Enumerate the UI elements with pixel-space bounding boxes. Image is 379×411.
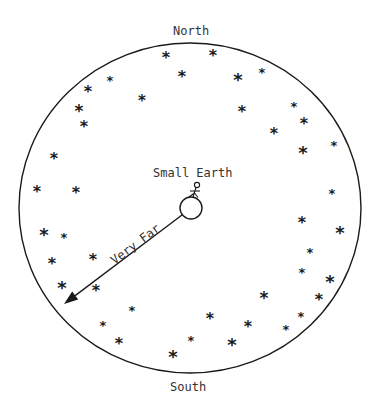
star-icon: *	[162, 50, 170, 66]
star-icon: *	[227, 336, 236, 354]
star-icon: *	[168, 348, 177, 366]
star-icon: *	[238, 104, 246, 120]
north-label: North	[173, 24, 209, 38]
star-icon: *	[89, 252, 97, 268]
star-icon: *	[115, 336, 123, 352]
star-icon: *	[80, 119, 88, 135]
sky-diagram	[0, 0, 379, 411]
star-icon: *	[92, 283, 100, 299]
star-icon: *	[259, 66, 266, 79]
star-icon: *	[188, 334, 195, 347]
star-icon: *	[329, 187, 336, 200]
star-icon: *	[300, 116, 308, 132]
star-icon: *	[298, 144, 307, 162]
star-icon: *	[298, 310, 305, 323]
star-icon: *	[39, 226, 48, 244]
small-earth-circle	[180, 197, 202, 219]
star-icon: *	[178, 69, 186, 85]
star-icon: *	[291, 100, 298, 113]
star-icon: *	[315, 292, 323, 308]
star-icon: *	[299, 266, 306, 279]
small-earth-label: Small Earth	[153, 166, 232, 180]
star-icon: *	[307, 246, 314, 259]
star-icon: *	[48, 256, 56, 272]
star-icon: *	[260, 290, 269, 307]
star-icon: *	[335, 224, 344, 242]
star-icon: *	[331, 139, 338, 152]
star-icon: *	[72, 185, 80, 201]
star-icon: *	[325, 273, 334, 291]
star-icon: *	[107, 74, 114, 87]
star-icon: *	[50, 151, 58, 167]
star-icon: *	[138, 94, 146, 109]
star-icon: *	[244, 319, 252, 335]
star-icon: *	[57, 279, 66, 297]
star-icon: *	[233, 71, 242, 89]
stick-figure-icon	[189, 182, 200, 197]
star-icon: *	[298, 215, 306, 231]
south-label: South	[170, 380, 206, 394]
star-icon: *	[206, 311, 214, 327]
star-icon: *	[100, 319, 107, 332]
star-icon: *	[283, 323, 290, 336]
star-icon: *	[270, 126, 278, 142]
star-icon: *	[33, 184, 41, 200]
star-icon: *	[129, 304, 136, 317]
star-icon: *	[61, 231, 68, 244]
star-icon: *	[209, 48, 217, 64]
star-icon: *	[84, 84, 92, 100]
